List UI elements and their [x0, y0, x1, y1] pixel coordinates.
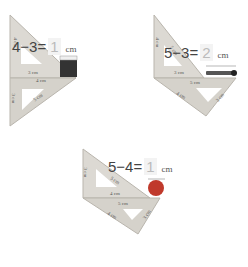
eq-answer: 1 — [48, 38, 60, 55]
eq-b: 4 — [125, 158, 133, 175]
panel-2: 4 cm 5 cm 3 cm 5 cm 4 cm 3 cm 5 − 3 = 2 … — [124, 0, 248, 134]
equation-2: 5 − 3 = 2 cm — [164, 44, 229, 61]
eq-op: − — [116, 158, 125, 175]
eq-b: 3 — [29, 38, 37, 55]
eq-answer: 1 — [144, 158, 156, 175]
eq-a: 5 — [108, 158, 116, 175]
set-squares-2 — [124, 0, 248, 134]
eq-equals: = — [133, 158, 142, 175]
eq-a: 4 — [12, 38, 20, 55]
eq-unit: cm — [66, 44, 77, 54]
label-side: 3 cm — [83, 168, 88, 178]
label-base: 5 cm — [118, 201, 128, 206]
eq-answer: 2 — [200, 44, 212, 61]
ball-icon — [148, 180, 164, 196]
eq-equals: = — [37, 38, 46, 55]
eq-b: 3 — [181, 44, 189, 61]
label-base: 3 cm — [28, 70, 38, 75]
match-icon — [206, 71, 233, 75]
eq-op: − — [172, 44, 181, 61]
eq-unit: cm — [218, 50, 229, 60]
label-base: 3 cm — [174, 70, 184, 75]
eq-unit: cm — [162, 164, 173, 174]
label-side: 3 cm — [11, 94, 16, 104]
eraser-icon — [60, 58, 77, 77]
label-side: 4 cm — [155, 38, 160, 48]
panel-3: 3 cm 5 cm 4 cm 5 cm 4 cm 3 cm 5 − 4 = 1 … — [60, 134, 184, 267]
set-squares-1 — [0, 0, 124, 134]
eq-equals: = — [189, 44, 198, 61]
equation-1: 4 − 3 = 1 cm — [12, 38, 77, 55]
label-base: 5 cm — [190, 80, 200, 85]
equation-3: 5 − 4 = 1 cm — [108, 158, 173, 175]
label-base: 4 cm — [36, 78, 46, 83]
panel-1: 4 cm 3 cm 4 cm 3 cm 5 cm 4 − 3 = 1 cm — [0, 0, 124, 134]
eq-op: − — [20, 38, 29, 55]
label-base: 4 cm — [110, 191, 120, 196]
eq-a: 5 — [164, 44, 172, 61]
